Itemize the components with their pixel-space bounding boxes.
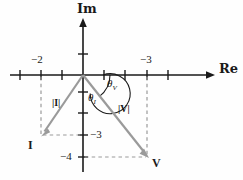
real-axis-label: Re: [219, 62, 238, 75]
imaginary-axis-label: Im: [77, 2, 97, 15]
axis-group: [10, 18, 215, 172]
imag-tick-label-minus-4: −4: [60, 151, 72, 162]
voltage-phasor-label: V: [152, 157, 161, 169]
current-phasor-label: I: [28, 139, 33, 151]
real-tick-label-minus-3: −3: [140, 54, 152, 65]
imag-tick-label-minus-3: −3: [90, 129, 102, 140]
current-angle-subscript: I: [93, 98, 95, 106]
imag-axis-arrowhead: [79, 18, 87, 27]
voltage-angle-subscript: V: [112, 84, 116, 92]
phasor-diagram-canvas: [0, 0, 243, 180]
voltage-magnitude-label: |V|: [118, 104, 130, 114]
real-tick-label-minus-2: −2: [31, 54, 43, 65]
current-angle-label: θI: [88, 92, 96, 106]
phasor-current: [41, 75, 83, 137]
real-axis-arrowhead: [206, 71, 215, 79]
phasor-diagram-figure: Im Re −2 −3 −3 −4 |I| |V| I V θV θI: [0, 0, 243, 180]
current-magnitude-label: |I|: [52, 98, 60, 108]
voltage-angle-label: θV: [107, 78, 117, 92]
phasor-current-line: [45, 75, 84, 132]
